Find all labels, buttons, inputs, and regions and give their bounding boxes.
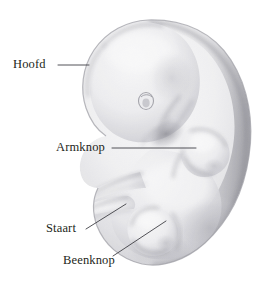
label-staart: Staart (46, 221, 76, 235)
label-beenknop: Beenknop (63, 253, 115, 267)
pencil-grain (0, 0, 276, 283)
label-armknop: Armknop (56, 140, 105, 154)
embryo-body (0, 0, 276, 283)
embryo-figure: Hoofd Armknop Staart Beenknop (0, 0, 276, 283)
embryo-illustration (0, 0, 276, 283)
label-hoofd: Hoofd (13, 57, 46, 71)
